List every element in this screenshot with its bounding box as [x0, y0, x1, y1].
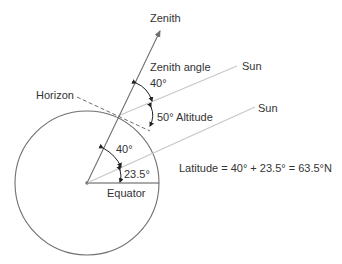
- latitude-diagram: Zenith Zenith angle 40° Horizon 50° Alti…: [0, 0, 342, 264]
- sun-ray-upper: [118, 66, 237, 116]
- altitude-label: 50° Altitude: [157, 111, 213, 123]
- altitude-arc: [150, 107, 153, 126]
- equator-label: Equator: [107, 187, 146, 199]
- horizon-label: Horizon: [36, 89, 74, 101]
- sun-lower-label: Sun: [258, 102, 278, 114]
- tilt-angle-arc: [120, 170, 121, 182]
- central-angle-label: 40°: [116, 143, 133, 155]
- latitude-formula: Latitude = 40° + 23.5° = 63.5°N: [179, 162, 332, 174]
- zenith-label: Zenith: [150, 12, 181, 24]
- sun-upper-label: Sun: [242, 60, 262, 72]
- zenith-angle-label: Zenith angle: [150, 61, 211, 73]
- tilt-angle-label: 23.5°: [124, 168, 150, 180]
- horizon-line: [77, 97, 150, 131]
- zenith-angle-value: 40°: [150, 77, 167, 89]
